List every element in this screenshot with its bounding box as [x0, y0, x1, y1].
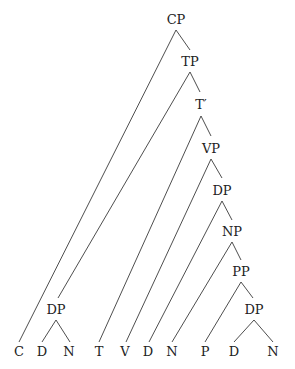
edge-vp-v: [126, 159, 211, 342]
syntax-tree: CP TP T′ VP DP NP PP DP DP C D N T V D N…: [0, 0, 295, 369]
edge-dp-n: [56, 320, 70, 342]
edge-np-n: [172, 242, 232, 342]
leaf-v: V: [119, 344, 130, 359]
node-vp: VP: [201, 141, 220, 156]
leaf-t: T: [95, 344, 104, 359]
edge-dp-d2: [149, 201, 222, 342]
edge-tbar-t: [99, 116, 201, 342]
node-pp: PP: [232, 264, 250, 279]
node-tbar: T′: [195, 97, 207, 112]
leaf-d: D: [143, 344, 153, 359]
edge-dp-n3: [254, 320, 273, 342]
edge-cp-tp: [176, 30, 190, 50]
leaf-nodes: C D N T V D N P D N: [14, 344, 279, 359]
edge-pp-p: [205, 282, 241, 342]
node-np: NP: [222, 224, 242, 239]
edge-dp-d: [42, 320, 56, 342]
node-dp-object: DP: [212, 183, 231, 198]
leaf-p: P: [201, 344, 210, 359]
edge-pp-dp: [241, 282, 253, 298]
edge-cp-c: [19, 30, 176, 342]
node-cp: CP: [167, 12, 186, 27]
edge-dp-d3: [234, 320, 254, 342]
edge-tbar-vp: [201, 116, 211, 136]
node-dp-subject: DP: [46, 302, 65, 317]
edge-np-pp: [232, 242, 241, 260]
internal-nodes: CP TP T′ VP DP NP PP DP DP: [46, 12, 263, 317]
leaf-d: D: [37, 344, 47, 359]
leaf-n: N: [267, 344, 278, 359]
leaf-n: N: [166, 344, 177, 359]
edge-dp-np: [222, 201, 232, 220]
leaf-d: D: [229, 344, 239, 359]
tree-edges: [19, 30, 273, 342]
node-dp-pp-object: DP: [244, 302, 263, 317]
edge-vp-dp: [211, 159, 222, 178]
leaf-c: C: [14, 344, 24, 359]
node-tp: TP: [181, 54, 199, 69]
leaf-n: N: [63, 344, 74, 359]
edge-tp-tbar: [190, 72, 200, 92]
